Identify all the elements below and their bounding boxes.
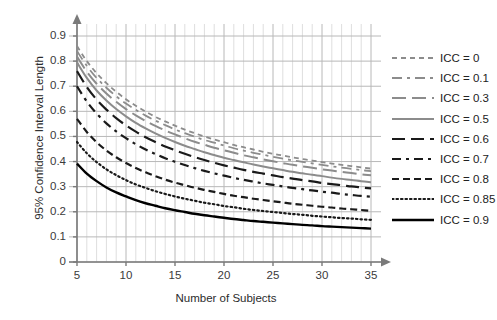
legend-swatch-icon: [392, 72, 434, 84]
legend-label: ICC = 0: [434, 52, 479, 64]
legend-label: ICC = 0.1: [434, 72, 489, 84]
legend-item[interactable]: ICC = 0.7: [392, 149, 497, 169]
legend-label: ICC = 0.3: [434, 92, 489, 104]
legend-swatch-icon: [392, 92, 434, 104]
legend-label: ICC = 0.5: [434, 113, 489, 125]
legend-label: ICC = 0.9: [434, 214, 489, 226]
legend-item[interactable]: ICC = 0.1: [392, 68, 497, 88]
legend-swatch-icon: [392, 193, 434, 205]
legend-swatch-icon: [392, 173, 434, 185]
chart-figure: 95% Confidence Interval Length Number of…: [0, 0, 497, 320]
y-axis-arrowhead: [73, 14, 82, 24]
legend-item[interactable]: ICC = 0.85: [392, 189, 497, 209]
legend-label: ICC = 0.8: [434, 173, 489, 185]
legend-item[interactable]: ICC = 0.5: [392, 109, 497, 129]
legend-swatch-icon: [392, 133, 434, 145]
legend-item[interactable]: ICC = 0.9: [392, 210, 497, 230]
chart-legend: ICC = 0ICC = 0.1ICC = 0.3ICC = 0.5ICC = …: [392, 48, 497, 230]
legend-swatch-icon: [392, 153, 434, 165]
legend-swatch-icon: [392, 113, 434, 125]
legend-label: ICC = 0.7: [434, 153, 489, 165]
legend-swatch-icon: [392, 214, 434, 226]
x-axis-arrowhead: [381, 258, 391, 267]
legend-item[interactable]: ICC = 0: [392, 48, 497, 68]
legend-item[interactable]: ICC = 0.8: [392, 169, 497, 189]
legend-label: ICC = 0.6: [434, 133, 489, 145]
legend-item[interactable]: ICC = 0.3: [392, 88, 497, 108]
legend-swatch-icon: [392, 52, 434, 64]
legend-label: ICC = 0.85: [434, 193, 495, 205]
legend-item[interactable]: ICC = 0.6: [392, 129, 497, 149]
